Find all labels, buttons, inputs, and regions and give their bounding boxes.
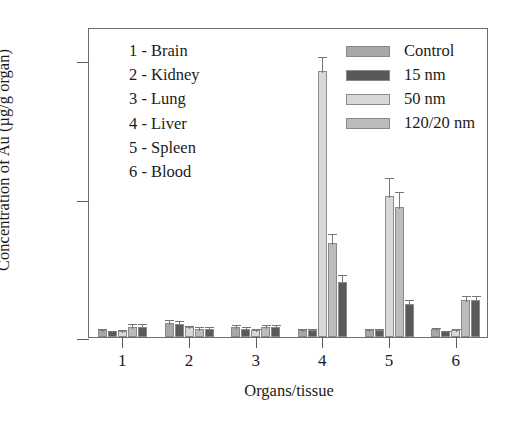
error-bar-cap (395, 192, 404, 193)
error-bar-cap (118, 330, 127, 331)
legend-label: 50 nm (404, 87, 446, 111)
legend-swatch (346, 70, 390, 81)
x-tick-label-2: 2 (169, 351, 209, 371)
x-tick-6 (456, 337, 457, 348)
organ-key-entry-3: 3 - Lung (129, 87, 200, 111)
y-tick-10 (77, 62, 89, 63)
error-bar (342, 275, 343, 283)
error-bar (399, 192, 400, 209)
error-bar-cap (462, 296, 471, 297)
error-bar-cap (328, 234, 337, 235)
bar (328, 243, 337, 337)
x-axis-title: Organs/tissue (89, 381, 489, 401)
chart-legend: Control15 nm50 nm120/20 nm (346, 39, 475, 135)
error-bar-cap (242, 327, 251, 328)
y-axis-title: Concentration of Au (µg/g organ) (0, 0, 14, 340)
organ-key-entry-2: 2 - Kidney (129, 63, 200, 87)
legend-label: Control (404, 39, 454, 63)
legend-item: 15 nm (346, 63, 475, 87)
legend-item: 50 nm (346, 87, 475, 111)
error-bar-cap (185, 326, 194, 327)
x-tick-label-6: 6 (436, 351, 476, 371)
legend-swatch (346, 94, 390, 105)
error-bar-cap (205, 327, 214, 328)
bar (338, 282, 347, 337)
error-bar-cap (432, 328, 441, 329)
bar (461, 300, 470, 337)
organ-key-entry-1: 1 - Brain (129, 39, 200, 63)
organ-key-entry-6: 6 - Blood (129, 160, 200, 184)
bar (318, 71, 327, 337)
error-bar-cap (138, 324, 147, 325)
error-bar-cap (375, 329, 384, 330)
error-bar-cap (365, 329, 374, 330)
legend-item: Control (346, 39, 475, 63)
error-bar-cap (272, 325, 281, 326)
x-tick-4 (322, 337, 323, 348)
organ-key-entry-5: 5 - Spleen (129, 136, 200, 160)
legend-label: 15 nm (404, 63, 446, 87)
error-bar-cap (195, 327, 204, 328)
legend-swatch (346, 46, 390, 57)
error-bar-cap (385, 178, 394, 179)
error-bar-cap (318, 57, 327, 58)
bar (175, 324, 184, 337)
error-bar-cap (338, 275, 347, 276)
error-bar-cap (442, 331, 451, 332)
bar-chart-figure: Concentration of Au (µg/g organ) 0510 12… (0, 0, 514, 422)
error-bar-cap (405, 300, 414, 301)
error-bar-cap (298, 329, 307, 330)
error-bar-cap (452, 329, 461, 330)
x-tick-3 (256, 337, 257, 348)
x-tick-2 (189, 337, 190, 348)
legend-label: 120/20 nm (404, 111, 475, 135)
error-bar (389, 178, 390, 197)
error-bar-cap (252, 329, 261, 330)
error-bar-cap (472, 296, 481, 297)
error-bar-cap (308, 329, 317, 330)
bar (471, 300, 480, 337)
organ-key-entry-4: 4 - Liver (129, 112, 200, 136)
x-tick-label-4: 4 (302, 351, 342, 371)
x-tick-5 (389, 337, 390, 348)
bar (395, 207, 404, 337)
x-tick-label-3: 3 (236, 351, 276, 371)
bar (405, 304, 414, 337)
y-tick-0 (77, 339, 89, 340)
error-bar-cap (128, 324, 137, 325)
error-bar-cap (175, 321, 184, 322)
error-bar-cap (165, 320, 174, 321)
error-bar (332, 234, 333, 245)
error-bar-cap (232, 325, 241, 326)
plot-area: 0510 123456 1 - Brain2 - Kidney3 - Lung4… (88, 28, 488, 338)
bar (165, 323, 174, 337)
organ-key: 1 - Brain2 - Kidney3 - Lung4 - Liver5 - … (129, 39, 200, 184)
error-bar-cap (98, 329, 107, 330)
legend-item: 120/20 nm (346, 111, 475, 135)
legend-swatch (346, 118, 390, 129)
x-tick-label-5: 5 (369, 351, 409, 371)
bar (385, 196, 394, 337)
error-bar (322, 57, 323, 74)
x-tick-1 (122, 337, 123, 348)
error-bar-cap (262, 325, 271, 326)
x-tick-label-1: 1 (102, 351, 142, 371)
error-bar-cap (108, 331, 117, 332)
y-tick-5 (77, 201, 89, 202)
